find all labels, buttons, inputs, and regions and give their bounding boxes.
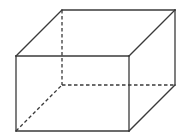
hidden-edge-front-bottom-left-to-back-bottom-left [16,85,62,131]
visible-edge-front-top-left-to-back-top-left [16,10,62,56]
box-diagram [0,0,184,139]
hidden-edges [16,10,175,131]
visible-edge-front-bottom-right-to-back-bottom-right [129,85,175,131]
visible-edges [16,10,175,131]
visible-edge-front-top-right-to-back-top-right [129,10,175,56]
